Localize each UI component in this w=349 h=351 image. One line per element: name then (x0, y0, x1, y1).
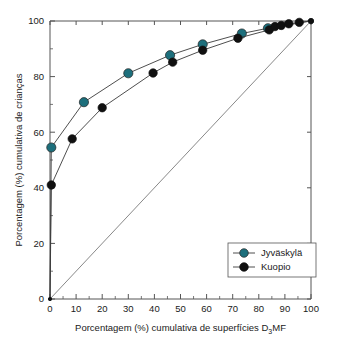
y-tick-label: 100 (28, 15, 44, 26)
y-tick-label: 0 (39, 293, 44, 304)
x-tick-label: 80 (254, 303, 265, 314)
data-point (48, 297, 51, 300)
x-tick-label: 10 (71, 303, 82, 314)
data-point (124, 69, 133, 78)
data-point (79, 98, 88, 107)
data-point (149, 69, 157, 77)
x-tick-label: 60 (201, 303, 212, 314)
legend-marker (240, 249, 249, 258)
y-tick-label: 80 (33, 71, 44, 82)
data-point (68, 135, 76, 143)
data-point (285, 20, 293, 28)
y-tick-label: 40 (33, 182, 44, 193)
data-point (98, 104, 106, 112)
legend[interactable]: JyväskyläKuopio (228, 243, 316, 277)
lorenz-curve-chart: 0102030405060708090100020406080100 Porce… (0, 0, 349, 351)
legend-marker (240, 263, 249, 272)
data-point (47, 181, 55, 189)
y-axis-title: Porcentagem (%) cumulativa de crianças (13, 73, 24, 246)
x-tick-label: 20 (97, 303, 108, 314)
data-point (308, 18, 313, 23)
x-axis-title-suffix: MF (272, 322, 286, 333)
x-tick-label: 90 (280, 303, 291, 314)
x-tick-label: 30 (123, 303, 134, 314)
legend-item-jyv-skyl-[interactable]: Jyväskylä (233, 247, 303, 258)
x-tick-label: 70 (227, 303, 238, 314)
data-point (295, 18, 303, 26)
data-point (168, 58, 176, 66)
chart-canvas: 0102030405060708090100020406080100 Porce… (0, 0, 349, 351)
y-tick-label: 60 (33, 127, 44, 138)
x-axis-title: Porcentagem (%) cumulativa de superfície… (75, 322, 286, 335)
x-tick-label: 100 (303, 303, 319, 314)
legend-item-label: Jyväskylä (261, 247, 303, 258)
x-tick-label: 40 (149, 303, 160, 314)
x-tick-label: 50 (175, 303, 186, 314)
y-tick-label: 20 (33, 238, 44, 249)
data-point (234, 34, 242, 42)
legend-item-kuopio[interactable]: Kuopio (233, 261, 291, 272)
data-point (198, 46, 206, 54)
data-point (277, 21, 285, 29)
axis-titles-group: Porcentagem (%) cumulativa de superfície… (13, 73, 286, 334)
data-point (47, 143, 56, 152)
legend-item-label: Kuopio (261, 261, 291, 272)
x-tick-label: 0 (47, 303, 52, 314)
